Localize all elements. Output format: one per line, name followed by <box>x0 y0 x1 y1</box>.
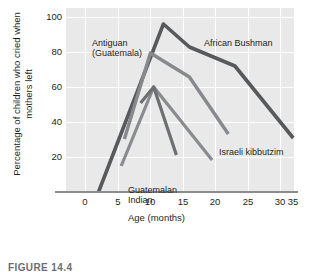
series-label-guatemalan-indian: Guatemalan Indian <box>128 185 177 205</box>
x-axis-label: Age (months) <box>0 212 313 223</box>
gridline-y-40 <box>66 122 294 123</box>
gridline-x-30 <box>280 8 281 192</box>
series-label-israeli-kibbutzim: Israeli kibbutzim <box>219 147 284 157</box>
gridline-x-0 <box>85 8 86 192</box>
gridline-x-25 <box>248 8 249 192</box>
gridline-y-100 <box>66 17 294 18</box>
x-tick-0: 0 <box>72 196 98 207</box>
gridline-x-20 <box>215 8 216 192</box>
series-label-antiguan: Antiguan (Guatemala) <box>92 38 142 58</box>
x-tick-35: 35 <box>280 196 306 207</box>
gridline-x-10 <box>150 8 151 192</box>
series-label-african-bushman: African Bushman <box>204 38 273 48</box>
y-axis-label: Percentage of children who cried when mo… <box>11 9 35 179</box>
figure-container: 100 80 60 40 20 0 5 10 15 20 25 30 35 Ag… <box>0 0 313 272</box>
gridline-x-5 <box>118 8 119 192</box>
figure-caption: FIGURE 14.4 <box>8 262 72 272</box>
gridline-y-20 <box>66 157 294 158</box>
gridline-y-60 <box>66 87 294 88</box>
x-tick-25: 25 <box>235 196 261 207</box>
plot-area <box>66 8 294 192</box>
gridline-x-15 <box>183 8 184 192</box>
x-tick-20: 20 <box>202 196 228 207</box>
